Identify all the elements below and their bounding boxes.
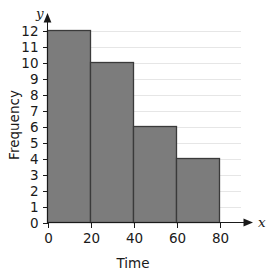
- y-tick-label: 7: [30, 103, 39, 119]
- y-tick-label: 12: [21, 23, 38, 39]
- y-tick-label: 0: [30, 215, 39, 231]
- bar-20-40: [91, 63, 134, 223]
- y-tick-label: 4: [30, 151, 39, 167]
- x-tick-label: 60: [169, 230, 186, 246]
- x-tick-label: 0: [44, 230, 53, 246]
- y-tick-label: 3: [30, 167, 39, 183]
- x-axis-variable-label: x: [258, 214, 266, 230]
- x-axis-title: Time: [115, 255, 149, 271]
- bar-60-80: [177, 159, 220, 223]
- y-axis-variable-label: y: [35, 5, 44, 21]
- y-axis-title: Frequency: [6, 90, 22, 160]
- y-tick-label: 6: [30, 119, 39, 135]
- y-tick-label: 5: [30, 135, 39, 151]
- x-tick-label: 40: [126, 230, 143, 246]
- y-tick-label: 1: [30, 199, 39, 215]
- y-tick-label: 10: [21, 55, 38, 71]
- y-tick-label: 9: [30, 71, 39, 87]
- bar-40-60: [134, 127, 177, 223]
- x-tick-label: 80: [212, 230, 229, 246]
- histogram-chart: 0123456789101112 020406080 y x Time Freq…: [0, 0, 273, 279]
- y-tick-label: 2: [30, 183, 39, 199]
- y-tick-label: 8: [30, 87, 39, 103]
- y-tick-label: 11: [21, 39, 38, 55]
- chart-canvas: 0123456789101112 020406080 y x Time Freq…: [0, 0, 273, 279]
- x-tick-label: 20: [83, 230, 100, 246]
- bar-0-20: [48, 31, 91, 223]
